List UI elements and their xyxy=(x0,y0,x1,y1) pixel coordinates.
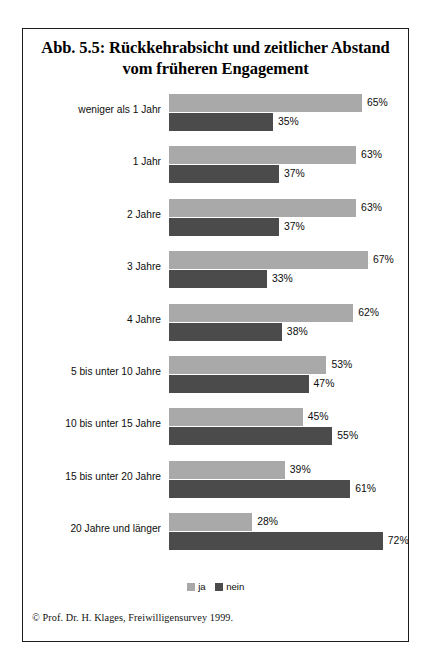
bar-ja[interactable] xyxy=(169,408,303,426)
bars-wrapper: 53%47% xyxy=(169,356,408,395)
bar-value-label: 35% xyxy=(278,115,299,129)
category-label: 10 bis unter 15 Jahre xyxy=(23,418,161,430)
bar-ja[interactable] xyxy=(169,461,285,479)
chart-plot-area: weniger als 1 Jahr65%35%1 Jahr63%37%2 Ja… xyxy=(23,94,408,594)
category-label: 4 Jahre xyxy=(23,314,161,326)
bar-nein[interactable] xyxy=(169,270,267,288)
title-line-2: vom früheren Engagement xyxy=(31,58,400,79)
bar-nein[interactable] xyxy=(169,480,350,498)
bar-value-label: 67% xyxy=(373,253,394,267)
bar-value-label: 37% xyxy=(284,220,305,234)
bars-wrapper: 28%72% xyxy=(169,513,408,552)
category-label: 15 bis unter 20 Jahre xyxy=(23,471,161,483)
bar-row-ja: 63% xyxy=(169,146,408,164)
legend-item-ja[interactable]: ja xyxy=(187,582,206,592)
bar-value-label: 39% xyxy=(290,463,311,477)
bar-group: 4 Jahre62%38% xyxy=(23,304,408,343)
bar-group: 15 bis unter 20 Jahre39%61% xyxy=(23,461,408,500)
bars-wrapper: 65%35% xyxy=(169,94,408,133)
bars-wrapper: 62%38% xyxy=(169,304,408,343)
bar-value-label: 33% xyxy=(272,272,293,286)
bar-row-nein: 37% xyxy=(169,165,408,183)
bars-wrapper: 45%55% xyxy=(169,408,408,447)
bar-row-nein: 33% xyxy=(169,270,408,288)
bar-value-label: 55% xyxy=(337,429,358,443)
category-label: 20 Jahre und länger xyxy=(23,523,161,535)
bar-ja[interactable] xyxy=(169,199,356,217)
legend-swatch-icon xyxy=(215,583,223,591)
bar-ja[interactable] xyxy=(169,94,362,112)
bar-value-label: 65% xyxy=(367,96,388,110)
bar-value-label: 62% xyxy=(358,306,379,320)
bar-group: 3 Jahre67%33% xyxy=(23,251,408,290)
bars-wrapper: 63%37% xyxy=(169,146,408,185)
category-label: weniger als 1 Jahr xyxy=(23,104,161,116)
bar-ja[interactable] xyxy=(169,251,368,269)
chart-legend: janein xyxy=(23,582,408,592)
figure-frame: Abb. 5.5: Rückkehrabsicht und zeitlicher… xyxy=(22,28,409,642)
bar-group: 1 Jahr63%37% xyxy=(23,146,408,185)
bar-row-nein: 47% xyxy=(169,375,408,393)
bar-value-label: 37% xyxy=(284,167,305,181)
bars-wrapper: 39%61% xyxy=(169,461,408,500)
bar-row-nein: 61% xyxy=(169,480,408,498)
category-label: 5 bis unter 10 Jahre xyxy=(23,366,161,378)
bar-group: 5 bis unter 10 Jahre53%47% xyxy=(23,356,408,395)
category-label: 1 Jahr xyxy=(23,156,161,168)
bar-value-label: 63% xyxy=(361,148,382,162)
bar-group: 2 Jahre63%37% xyxy=(23,199,408,238)
bar-row-ja: 63% xyxy=(169,199,408,217)
bar-row-nein: 38% xyxy=(169,323,408,341)
bar-value-label: 45% xyxy=(308,410,329,424)
bar-value-label: 72% xyxy=(388,534,409,548)
bar-value-label: 47% xyxy=(314,377,335,391)
bar-row-nein: 55% xyxy=(169,427,408,445)
bar-value-label: 28% xyxy=(257,515,278,529)
bar-value-label: 63% xyxy=(361,201,382,215)
bar-value-label: 61% xyxy=(355,482,376,496)
legend-swatch-icon xyxy=(187,583,195,591)
bar-value-label: 38% xyxy=(287,325,308,339)
bar-group: weniger als 1 Jahr65%35% xyxy=(23,94,408,133)
bar-row-nein: 72% xyxy=(169,532,408,550)
bar-ja[interactable] xyxy=(169,513,252,531)
bar-nein[interactable] xyxy=(169,532,383,550)
bar-row-ja: 28% xyxy=(169,513,408,531)
legend-label: ja xyxy=(198,582,205,592)
bar-ja[interactable] xyxy=(169,146,356,164)
bar-ja[interactable] xyxy=(169,304,353,322)
bars-wrapper: 67%33% xyxy=(169,251,408,290)
bar-row-ja: 45% xyxy=(169,408,408,426)
category-label: 3 Jahre xyxy=(23,261,161,273)
bar-row-ja: 67% xyxy=(169,251,408,269)
bar-nein[interactable] xyxy=(169,218,279,236)
bar-nein[interactable] xyxy=(169,427,332,445)
bar-value-label: 53% xyxy=(331,358,352,372)
title-line-1: Abb. 5.5: Rückkehrabsicht und zeitlicher… xyxy=(41,38,389,57)
bar-nein[interactable] xyxy=(169,323,282,341)
bar-row-ja: 62% xyxy=(169,304,408,322)
legend-label: nein xyxy=(226,582,244,592)
bar-nein[interactable] xyxy=(169,375,309,393)
bar-group: 10 bis unter 15 Jahre45%55% xyxy=(23,408,408,447)
bar-nein[interactable] xyxy=(169,165,279,183)
bar-nein[interactable] xyxy=(169,113,273,131)
bar-group: 20 Jahre und länger28%72% xyxy=(23,513,408,552)
bars-wrapper: 63%37% xyxy=(169,199,408,238)
bar-row-ja: 65% xyxy=(169,94,408,112)
source-note: © Prof. Dr. H. Klages, Freiwilligensurve… xyxy=(32,612,233,623)
bar-row-ja: 53% xyxy=(169,356,408,374)
bar-ja[interactable] xyxy=(169,356,326,374)
bar-row-ja: 39% xyxy=(169,461,408,479)
category-label: 2 Jahre xyxy=(23,209,161,221)
page-title: Abb. 5.5: Rückkehrabsicht und zeitlicher… xyxy=(23,37,408,79)
bar-row-nein: 37% xyxy=(169,218,408,236)
bar-row-nein: 35% xyxy=(169,113,408,131)
legend-item-nein[interactable]: nein xyxy=(215,582,245,592)
